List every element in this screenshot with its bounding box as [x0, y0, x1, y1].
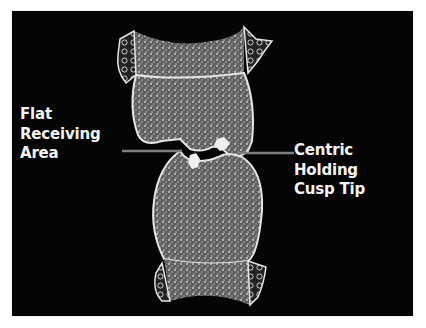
upper-tooth	[118, 27, 272, 157]
label-line: Cusp Tip	[294, 180, 413, 200]
flat-receiving-area-label: Flat Receiving Area	[20, 105, 100, 164]
centric-holding-cusp-tip-label: Centric Holding Cusp Tip	[294, 141, 413, 200]
lower-tooth	[153, 151, 266, 305]
slide: Flat Receiving Area Centric Holding Cusp…	[12, 11, 413, 316]
label-line: Flat	[20, 105, 100, 125]
label-line: Receiving	[20, 125, 100, 145]
label-line: Area	[20, 144, 100, 164]
label-line: Centric Holding	[294, 141, 413, 180]
